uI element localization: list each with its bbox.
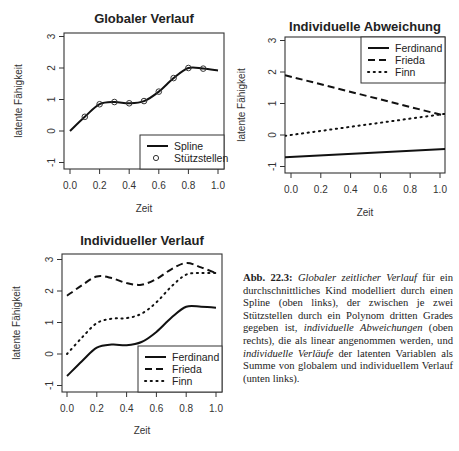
chart-panel-3: Individueller Verlauf0.00.20.40.60.81.0-… [11,233,223,436]
caption-emphasis: individuelle Abweichungen [304,322,423,333]
legend-label: Finn [172,375,193,387]
legend-label: Stützstellen [174,152,228,164]
x-axis-label: Zeit [134,425,151,436]
figure-caption: Abb. 22.3: Globaler zeitlicher Verlauf f… [243,272,453,385]
legend: SplineStützstellen [140,135,228,169]
x-axis-label: Zeit [357,207,374,218]
y-tick-label: 2 [44,288,55,294]
legend-label: Ferdinand [395,42,442,54]
x-tick-label: 0.4 [122,180,136,191]
chart-title: Individueller Verlauf [80,233,204,248]
x-tick-label: 0.6 [149,403,163,414]
legend-label: Frieda [395,54,425,66]
x-tick-label: 0.2 [93,180,107,191]
y-tick-label: 3 [44,256,55,262]
caption-emphasis: individuelle Verläufe [243,348,333,359]
x-axis-label: Zeit [136,203,153,214]
legend-label: Ferdinand [172,351,219,363]
y-tick-label: -1 [267,162,278,171]
x-tick-label: 0.4 [120,403,134,414]
x-tick-label: 0.6 [373,184,387,195]
x-tick-label: 1.0 [433,184,447,195]
y-tick-label: 0 [44,351,55,357]
legend-label: Spline [174,140,203,152]
caption-emphasis: Globaler zeitlicher Verlauf [298,272,417,283]
x-tick-label: 0.0 [63,180,77,191]
caption-body: Globaler zeitlicher Verlauf für ein durc… [243,272,453,384]
y-axis-label: latente Fähigkeit [11,286,22,360]
x-tick-label: 0.4 [344,184,358,195]
legend: FerdinandFriedaFinn [361,37,445,83]
y-tick-label: 0 [267,132,278,138]
x-tick-label: 0.6 [152,180,166,191]
y-tick-label: -1 [44,381,55,390]
y-tick-label: 1 [267,100,278,106]
x-tick-label: 1.0 [209,403,223,414]
x-tick-label: 0.0 [284,184,298,195]
series-line-frieda [67,263,216,296]
y-tick-label: 2 [267,69,278,75]
legend-label: Finn [395,66,416,78]
series-line-finn [285,114,446,136]
y-tick-label: 2 [46,65,57,71]
x-tick-label: 0.8 [179,403,193,414]
chart-panel-1: Globaler Verlauf0.00.20.40.60.81.0-10123… [13,11,228,214]
y-tick-label: 3 [46,33,57,39]
legend-label: Frieda [172,363,202,375]
y-tick-label: 3 [267,37,278,43]
y-tick-label: 0 [46,128,57,134]
x-tick-label: 0.2 [90,403,104,414]
chart-title: Globaler Verlauf [94,11,194,26]
x-tick-label: 0.8 [403,184,417,195]
chart-panel-2: Individuelle Abweichung0.00.20.40.60.81.… [236,19,447,218]
series-line-spline [70,67,218,131]
x-tick-label: 0.8 [181,180,195,191]
x-tick-label: 0.2 [314,184,328,195]
legend: FerdinandFriedaFinn [138,346,222,392]
x-tick-label: 1.0 [211,180,225,191]
y-tick-label: -1 [46,158,57,167]
caption-label: Abb. 22.3: [243,272,293,283]
series-line-ferdinand [285,149,446,158]
y-tick-label: 1 [44,319,55,325]
y-axis-label: latente Fähigkeit [13,64,24,138]
chart-title: Individuelle Abweichung [289,19,441,34]
y-axis-label: latente Fähigkeit [236,68,247,142]
y-tick-label: 1 [46,96,57,102]
x-tick-label: 0.0 [60,403,74,414]
